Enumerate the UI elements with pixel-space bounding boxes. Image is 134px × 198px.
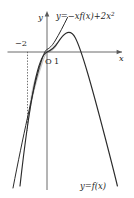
- y-axis-arrow-icon: [45, 11, 50, 16]
- x-axis-label: x: [119, 53, 124, 63]
- curve-f-of-x: [20, 32, 117, 186]
- y-axis-label: y: [37, 12, 43, 22]
- upper-curve-equation-text: y=−xf(x)+2x: [55, 11, 111, 21]
- origin-label: O: [45, 56, 52, 66]
- x-tick-label-1: 1: [54, 56, 59, 66]
- upper-curve-equation-label: y=−xf(x)+2x2: [55, 11, 115, 21]
- x-tick-label-neg2: −2: [15, 38, 27, 48]
- lower-curve-equation-label: y=f(x): [79, 181, 106, 191]
- graph-canvas: y x O 1 −2 y=−xf(x)+2x2 y=f(x): [0, 0, 134, 198]
- upper-curve-equation-exponent: 2: [110, 11, 115, 17]
- math-figure: y x O 1 −2 y=−xf(x)+2x2 y=f(x): [0, 0, 134, 198]
